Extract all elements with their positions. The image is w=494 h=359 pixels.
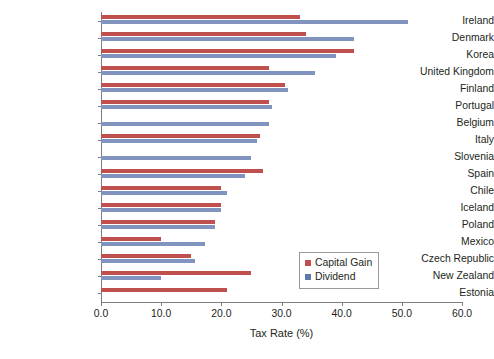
y-axis-tick [98, 293, 101, 294]
y-axis-label-mexico: Mexico [398, 236, 494, 247]
bar-capital-gain[interactable] [101, 15, 300, 19]
chart-legend: Capital Gain Dividend [299, 252, 379, 289]
bar-dividend[interactable] [101, 37, 354, 41]
x-axis-tick-label: 50.0 [379, 308, 425, 319]
legend-item-capital-gain[interactable]: Capital Gain [305, 256, 372, 270]
x-axis-tick-label: 40.0 [319, 308, 365, 319]
tax-rate-bar-chart: IrelandDenmarkKoreaUnited KingdomFinland… [0, 0, 494, 359]
bar-capital-gain[interactable] [101, 220, 215, 224]
y-axis-label-spain: Spain [398, 168, 494, 179]
bar-dividend[interactable] [101, 54, 336, 58]
x-axis-tick [221, 302, 222, 306]
y-axis-tick [98, 157, 101, 158]
bar-dividend[interactable] [101, 88, 288, 92]
y-axis-tick [98, 174, 101, 175]
bar-capital-gain[interactable] [101, 186, 221, 190]
bar-capital-gain[interactable] [101, 83, 285, 87]
x-axis-tick [161, 302, 162, 306]
bar-dividend[interactable] [101, 174, 245, 178]
y-axis-tick [98, 191, 101, 192]
y-axis-tick [98, 208, 101, 209]
legend-item-dividend[interactable]: Dividend [305, 270, 372, 284]
x-axis-tick-label: 10.0 [138, 308, 184, 319]
y-axis-label-new-zealand: New Zealand [398, 270, 494, 281]
y-axis-label-slovenia: Slovenia [398, 151, 494, 162]
y-axis-label-belgium: Belgium [398, 117, 494, 128]
y-axis-tick [98, 55, 101, 56]
x-axis-tick-label: 0.0 [78, 308, 124, 319]
bar-capital-gain[interactable] [101, 271, 251, 275]
y-axis-tick [98, 225, 101, 226]
bar-capital-gain[interactable] [101, 134, 260, 138]
bar-dividend[interactable] [101, 139, 257, 143]
y-axis-label-portugal: Portugal [398, 100, 494, 111]
bar-dividend[interactable] [101, 191, 227, 195]
y-axis-label-finland: Finland [398, 83, 494, 94]
bar-dividend[interactable] [101, 20, 408, 24]
y-axis-tick [98, 72, 101, 73]
y-axis-tick [98, 123, 101, 124]
x-axis-tick [101, 302, 102, 306]
bar-dividend[interactable] [101, 156, 251, 160]
x-axis-title: Tax Rate (%) [101, 327, 462, 339]
y-axis-label-denmark: Denmark [398, 32, 494, 43]
legend-label-dividend: Dividend [315, 271, 355, 283]
bar-capital-gain[interactable] [101, 66, 269, 70]
y-axis-label-united-kingdom: United Kingdom [398, 66, 494, 77]
bar-dividend[interactable] [101, 225, 215, 229]
y-axis-label-estonia: Estonia [398, 287, 494, 298]
bar-dividend[interactable] [101, 242, 205, 246]
x-axis-tick [462, 302, 463, 306]
x-axis-tick [342, 302, 343, 306]
x-axis-tick [282, 302, 283, 306]
y-axis-tick [98, 140, 101, 141]
bar-capital-gain[interactable] [101, 237, 161, 241]
y-axis-tick [98, 259, 101, 260]
legend-swatch-dividend-icon [305, 274, 311, 280]
y-axis-tick [98, 276, 101, 277]
y-axis-label-italy: Italy [398, 134, 494, 145]
bar-dividend[interactable] [101, 105, 272, 109]
bar-dividend[interactable] [101, 208, 221, 212]
bar-capital-gain[interactable] [101, 254, 191, 258]
bar-capital-gain[interactable] [101, 169, 263, 173]
y-axis-tick [98, 242, 101, 243]
y-axis-label-iceland: Iceland [398, 202, 494, 213]
bar-dividend[interactable] [101, 259, 195, 263]
bar-capital-gain[interactable] [101, 288, 227, 292]
bar-capital-gain[interactable] [101, 49, 354, 53]
bar-capital-gain[interactable] [101, 203, 221, 207]
y-axis-label-ireland: Ireland [398, 15, 494, 26]
bar-dividend[interactable] [101, 276, 161, 280]
x-axis-tick-label: 20.0 [198, 308, 244, 319]
y-axis-label-poland: Poland [398, 219, 494, 230]
y-axis-tick [98, 21, 101, 22]
y-axis-tick [98, 106, 101, 107]
bar-capital-gain[interactable] [101, 32, 306, 36]
x-axis-tick [402, 302, 403, 306]
y-axis-label-chile: Chile [398, 185, 494, 196]
y-axis-label-korea: Korea [398, 49, 494, 60]
y-axis-tick [98, 38, 101, 39]
bar-capital-gain[interactable] [101, 100, 269, 104]
bar-dividend[interactable] [101, 71, 315, 75]
bar-dividend[interactable] [101, 122, 269, 126]
y-axis-tick [98, 89, 101, 90]
legend-swatch-capital-gain-icon [305, 260, 311, 266]
legend-label-capital-gain: Capital Gain [315, 257, 372, 269]
y-axis-label-czech-republic: Czech Republic [398, 253, 494, 264]
x-axis-tick-label: 30.0 [259, 308, 305, 319]
x-axis-tick-label: 60.0 [439, 308, 485, 319]
